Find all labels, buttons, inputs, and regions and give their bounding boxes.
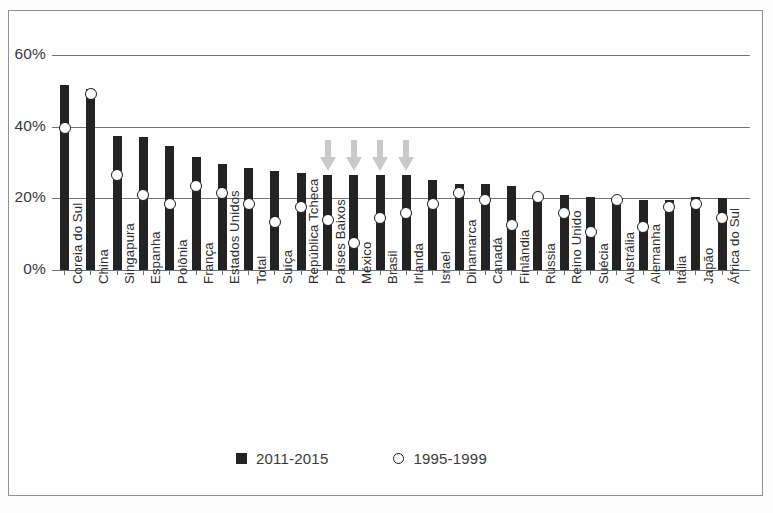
x-tick-mark: [274, 271, 275, 275]
bar-irlanda: [402, 175, 411, 270]
legend-item: 1995-1999: [393, 450, 487, 467]
marker-japão: [690, 198, 702, 210]
x-tick-mark: [643, 271, 644, 275]
bar-frança: [192, 157, 201, 270]
x-tick-mark: [432, 271, 433, 275]
x-axis-label: Suécia: [596, 243, 611, 284]
x-tick-mark: [117, 271, 118, 275]
marker-méxico: [348, 237, 360, 249]
arrow-down-icon: [371, 140, 389, 172]
bar-república-tcheca: [297, 173, 306, 270]
bar-áfrica-do-sul: [718, 198, 727, 270]
bar-austrália: [612, 197, 621, 270]
legend-label: 2011-2015: [256, 450, 328, 467]
x-axis-label: Japão: [701, 248, 716, 284]
x-axis-label: México: [359, 242, 374, 284]
chart-screenshot: 0%20%40%60%Coreia do SulChinaSingapuraEs…: [0, 0, 773, 513]
gridline-40: [52, 127, 750, 128]
x-axis-label: China: [96, 249, 111, 284]
arrow-down-icon: [319, 140, 337, 172]
marker-frança: [190, 180, 202, 192]
x-axis-label: Alemanha: [648, 224, 663, 284]
x-tick-mark: [90, 271, 91, 275]
x-axis-label: Dinamarca: [464, 219, 479, 284]
x-axis-label: Canadá: [490, 237, 505, 284]
x-axis-label: Brasil: [385, 250, 400, 284]
y-tick-label: 40%: [6, 117, 46, 135]
x-axis-label: África do Sul: [727, 208, 742, 284]
marker-israel: [427, 198, 439, 210]
marker-total: [243, 198, 255, 210]
gridline-60: [52, 55, 750, 56]
arrow-down-icon: [345, 140, 363, 172]
bar-méxico: [349, 175, 358, 270]
marker-coreia-do-sul: [59, 122, 71, 134]
x-tick-mark: [380, 271, 381, 275]
x-axis-label: Polônia: [175, 239, 190, 284]
x-axis-label: Reino Unido: [569, 210, 584, 284]
x-tick-mark: [196, 271, 197, 275]
x-tick-mark: [406, 271, 407, 275]
x-axis-label: Coreia do Sul: [70, 203, 85, 284]
x-tick-mark: [485, 271, 486, 275]
marker-austrália: [611, 194, 623, 206]
arrow-down-icon: [397, 140, 415, 172]
square-marker-icon: [236, 453, 247, 464]
x-axis-label: Israel: [438, 251, 453, 284]
bar-total: [244, 168, 253, 270]
marker-rússia: [532, 191, 544, 203]
x-tick-mark: [248, 271, 249, 275]
marker-irlanda: [400, 207, 412, 219]
x-tick-mark: [169, 271, 170, 275]
y-tick-label: 20%: [6, 188, 46, 206]
x-tick-mark: [353, 271, 354, 275]
x-tick-mark: [722, 271, 723, 275]
marker-países-baixos: [322, 214, 334, 226]
marker-polônia: [164, 198, 176, 210]
x-axis-label: Singapura: [122, 223, 137, 284]
legend-label: 1995-1999: [413, 450, 487, 467]
x-tick-mark: [590, 271, 591, 275]
y-tick-label: 60%: [6, 45, 46, 63]
y-tick-label: 0%: [6, 260, 46, 278]
x-axis-label: Finlândia: [517, 230, 532, 284]
x-axis-label: Total: [254, 256, 269, 284]
x-axis-label: República Tcheca: [306, 179, 321, 284]
chart-plot-area: 0%20%40%60%Coreia do SulChinaSingapuraEs…: [0, 0, 773, 513]
x-tick-mark: [301, 271, 302, 275]
bar-china: [86, 89, 95, 270]
x-axis-label: Itália: [674, 256, 689, 284]
x-tick-mark: [616, 271, 617, 275]
chart-legend: 2011-20151995-1999: [236, 450, 487, 467]
x-axis-label: Suíça: [280, 250, 295, 284]
circle-marker-icon: [393, 453, 404, 464]
x-tick-mark: [695, 271, 696, 275]
bar-estados-unidos: [218, 164, 227, 270]
x-tick-mark: [537, 271, 538, 275]
bar-alemanha: [639, 200, 648, 270]
x-tick-mark: [459, 271, 460, 275]
x-axis-label: Austrália: [622, 232, 637, 284]
bar-israel: [428, 180, 437, 270]
x-tick-mark: [64, 271, 65, 275]
x-axis-label: Estados Unidos: [227, 190, 242, 284]
x-axis-label: Países Baixos: [333, 199, 348, 284]
x-tick-mark: [327, 271, 328, 275]
x-axis-label: França: [201, 242, 216, 284]
x-tick-mark: [222, 271, 223, 275]
bar-rússia: [533, 195, 542, 270]
x-axis-label: Espanha: [148, 231, 163, 284]
bar-coreia-do-sul: [60, 85, 69, 270]
marker-suíça: [269, 216, 281, 228]
x-tick-mark: [511, 271, 512, 275]
x-axis-label: Rússia: [543, 243, 558, 284]
marker-finlândia: [506, 219, 518, 231]
marker-suécia: [585, 226, 597, 238]
marker-dinamarca: [453, 187, 465, 199]
bar-singapura: [113, 136, 122, 270]
x-axis-label: Irlanda: [411, 243, 426, 284]
bar-espanha: [139, 137, 148, 270]
legend-item: 2011-2015: [236, 450, 328, 467]
x-tick-mark: [143, 271, 144, 275]
x-tick-mark: [564, 271, 565, 275]
